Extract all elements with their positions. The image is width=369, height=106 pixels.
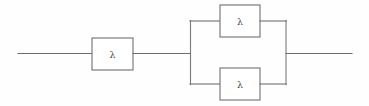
parallel-block-lower: λ <box>220 68 260 100</box>
reliability-block-diagram: λ λ λ <box>0 0 369 106</box>
parallel-block-upper: λ <box>220 5 260 37</box>
parallel-block-upper-label: λ <box>237 16 243 27</box>
series-block-label: λ <box>109 49 115 60</box>
parallel-block-lower-label: λ <box>237 79 243 90</box>
series-block: λ <box>92 38 133 70</box>
diagram-canvas: λ λ λ <box>0 0 369 106</box>
